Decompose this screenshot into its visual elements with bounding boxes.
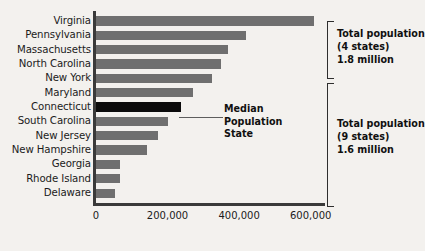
callout-leader-line [179, 117, 223, 118]
bar-row [96, 172, 325, 186]
bar-row [96, 57, 325, 71]
category-label: New Hampshire [0, 143, 91, 157]
bar-massachusetts [96, 45, 228, 54]
bar-rhode-island [96, 174, 120, 183]
group-bracket-top [327, 21, 334, 79]
bar-row [96, 28, 325, 42]
median-population-state-callout: MedianPopulationState [179, 104, 339, 140]
bar-delaware [96, 189, 115, 198]
annotation-line: Total population [337, 118, 425, 129]
category-label: New Jersey [0, 129, 91, 143]
bar-new-york [96, 74, 212, 83]
callout-text: MedianPopulationState [224, 103, 282, 141]
bar-row [96, 186, 325, 200]
bar-pennsylvania [96, 31, 246, 40]
x-axis-line [93, 203, 325, 206]
bar-row [96, 86, 325, 100]
group-bracket-bottom-label: Total population(9 states)1.6 million [337, 118, 425, 156]
category-label: Maryland [0, 86, 91, 100]
x-tick-label: 0 [93, 210, 99, 221]
category-label: Georgia [0, 157, 91, 171]
category-label: Rhode Island [0, 172, 91, 186]
bar-new-hampshire [96, 145, 147, 154]
category-label: Connecticut [0, 100, 91, 114]
bar-row [96, 157, 325, 171]
category-axis-labels: VirginiaPennsylvaniaMassachusettsNorth C… [0, 14, 91, 200]
bar-south-carolina [96, 117, 168, 126]
x-tick-label: 600,000 [290, 210, 331, 221]
bar-north-carolina [96, 59, 221, 68]
bar-virginia [96, 16, 314, 25]
category-label: Delaware [0, 186, 91, 200]
annotation-line: State [224, 128, 253, 139]
x-tick-label: 200,000 [147, 210, 188, 221]
annotation-line: (4 states) [337, 41, 389, 52]
annotation-line: Median [224, 103, 264, 114]
category-label: Massachusetts [0, 43, 91, 57]
category-label: Pennsylvania [0, 28, 91, 42]
category-label: South Carolina [0, 114, 91, 128]
annotation-line: Total population [337, 28, 425, 39]
category-label: North Carolina [0, 57, 91, 71]
bar-georgia [96, 160, 120, 169]
annotation-line: Population [224, 116, 282, 127]
category-label: New York [0, 71, 91, 85]
x-axis-tick-labels: 0200,000400,000600,000 [96, 210, 336, 230]
category-label: Virginia [0, 14, 91, 28]
bar-row [96, 143, 325, 157]
bar-row [96, 71, 325, 85]
annotation-line: (9 states) [337, 131, 389, 142]
group-bracket-top-label: Total population(4 states)1.8 million [337, 28, 425, 66]
bar-maryland [96, 88, 193, 97]
bar-connecticut [96, 102, 181, 111]
annotation-line: 1.6 million [337, 144, 394, 155]
x-tick-label: 400,000 [218, 210, 259, 221]
annotation-line: 1.8 million [337, 54, 394, 65]
bar-row [96, 14, 325, 28]
bar-row [96, 43, 325, 57]
bar-new-jersey [96, 131, 158, 140]
group-bracket-bottom [327, 83, 334, 207]
